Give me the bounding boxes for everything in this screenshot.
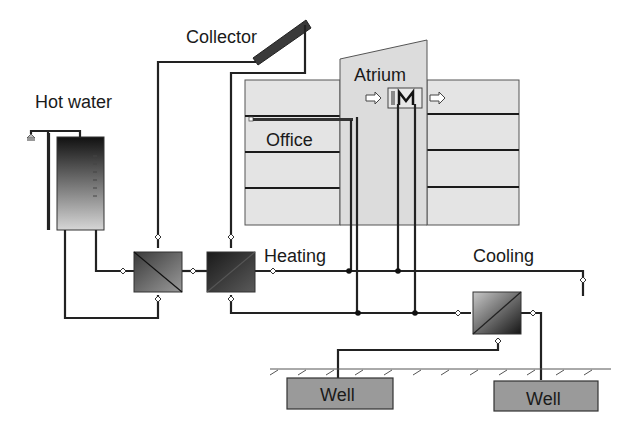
label-well-left: Well bbox=[320, 385, 355, 405]
label-well-right: Well bbox=[526, 389, 561, 409]
heat-exchanger-hot-water bbox=[134, 252, 182, 292]
hot-water-tank bbox=[57, 137, 104, 230]
label-collector: Collector bbox=[186, 27, 257, 47]
solar-aquifer-energy-system-diagram: Collector Hot water Atrium Office Heatin… bbox=[0, 0, 628, 434]
office-building bbox=[245, 80, 340, 225]
atrium-air-unit bbox=[388, 88, 422, 108]
label-heating: Heating bbox=[264, 246, 326, 266]
ground-surface bbox=[270, 369, 611, 375]
label-hot-water: Hot water bbox=[35, 92, 112, 112]
label-atrium: Atrium bbox=[354, 65, 406, 85]
solar-collector bbox=[253, 20, 311, 65]
heat-exchanger-heating bbox=[207, 252, 255, 292]
heat-exchanger-cooling bbox=[473, 292, 521, 334]
label-cooling: Cooling bbox=[473, 246, 534, 266]
label-office: Office bbox=[266, 130, 313, 150]
